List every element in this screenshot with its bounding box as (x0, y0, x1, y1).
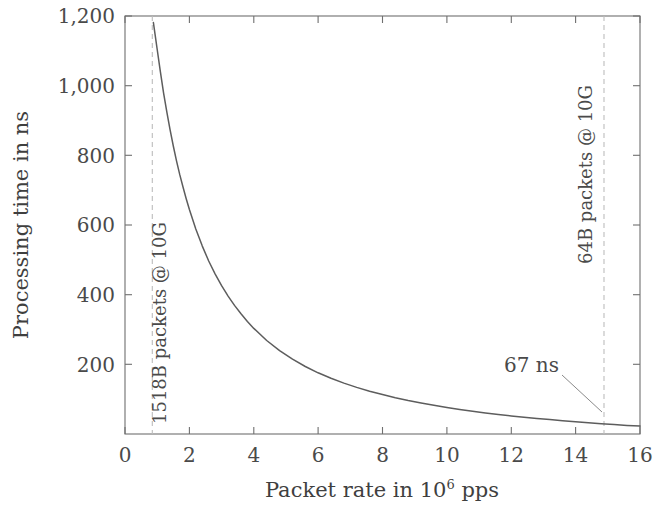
annotation-64b-label: 64B packets @ 10G (575, 85, 596, 264)
x-axis-title: Packet rate in 106 pps (265, 477, 499, 502)
y-tick-marks-right (633, 16, 640, 364)
y-tick-labels: 200 400 600 800 1,000 1,200 (58, 4, 115, 376)
y-tick-label: 200 (77, 353, 115, 377)
y-axis-title: Processing time in ns (9, 111, 33, 339)
x-tick-label: 12 (499, 443, 524, 467)
annotation-67ns-label: 67 ns (504, 353, 559, 377)
x-axis-title-pre: Packet rate in 10 (265, 478, 446, 502)
x-axis-title-superscript: 6 (446, 477, 454, 492)
x-tick-marks-bottom (125, 427, 640, 434)
x-axis-title-post: pps (455, 478, 499, 502)
callout-leader-line (562, 375, 602, 412)
x-tick-label: 4 (247, 443, 260, 467)
plot-canvas: 0 2 4 6 8 10 12 14 16 200 400 600 800 1,… (0, 0, 665, 506)
y-tick-label: 600 (77, 213, 115, 237)
x-tick-label: 10 (434, 443, 459, 467)
y-tick-label: 800 (77, 144, 115, 168)
x-tick-marks-top (125, 16, 640, 23)
svg-text:Packet rate in 106 pps: Packet rate in 106 pps (265, 477, 499, 502)
y-tick-label: 400 (77, 283, 115, 307)
chart-figure: 0 2 4 6 8 10 12 14 16 200 400 600 800 1,… (0, 0, 665, 506)
x-tick-label: 8 (376, 443, 389, 467)
x-tick-label: 2 (183, 443, 196, 467)
x-tick-label: 14 (563, 443, 588, 467)
x-tick-label: 16 (627, 443, 652, 467)
processing-time-curve (153, 23, 640, 427)
x-tick-label: 6 (312, 443, 325, 467)
x-tick-label: 0 (119, 443, 132, 467)
plot-frame (125, 16, 640, 434)
y-tick-label: 1,000 (58, 74, 115, 98)
x-tick-labels: 0 2 4 6 8 10 12 14 16 (119, 443, 653, 467)
y-tick-marks-left (125, 16, 132, 364)
y-tick-label: 1,200 (58, 4, 115, 28)
annotation-1518b-label: 1518B packets @ 10G (149, 222, 170, 424)
